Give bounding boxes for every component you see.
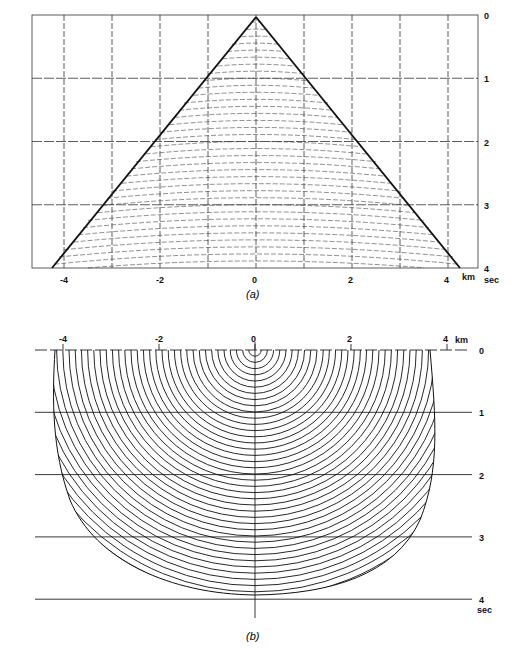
y-unit-label: sec <box>477 605 492 615</box>
y-tick-label: 2 <box>479 471 484 481</box>
x-tick-label: 0 <box>251 334 256 344</box>
x-tick-label: 4 <box>443 334 448 344</box>
x-tick-label: -2 <box>155 334 163 344</box>
x-unit-label: km <box>455 335 468 345</box>
y-tick-label: 4 <box>479 595 484 605</box>
figure-b-caption: (b) <box>246 630 259 642</box>
x-tick-label: 2 <box>347 334 352 344</box>
figure-b-diagram: -4-2024km01234sec <box>0 0 526 648</box>
y-tick-label: 0 <box>479 346 484 356</box>
y-tick-label: 3 <box>479 533 484 543</box>
x-tick-label: -4 <box>59 334 67 344</box>
y-tick-label: 1 <box>479 408 484 418</box>
figure-a-caption: (a) <box>246 288 259 300</box>
